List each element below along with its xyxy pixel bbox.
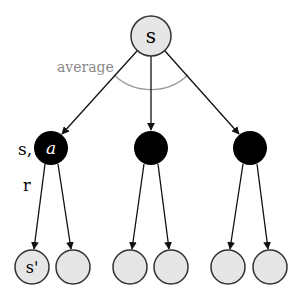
backup-diagram: s average a s, r s' <box>0 0 302 291</box>
root-state-label: s <box>146 24 156 48</box>
leaf-state-node-6 <box>253 250 287 284</box>
leaf-state-node-5 <box>211 250 245 284</box>
edge-action-1-to-leaf-2 <box>58 164 71 249</box>
edge-action-2-to-leaf-4 <box>158 164 169 249</box>
action-node-1: a <box>34 131 68 165</box>
edge-action-3-to-leaf-6 <box>257 164 268 249</box>
leaf-state-node-1: s' <box>15 250 49 284</box>
leaf-state-node-2 <box>56 250 90 284</box>
leaf-state-node-4 <box>154 250 188 284</box>
leaf-state-node-3 <box>113 250 147 284</box>
root-state-node: s <box>131 16 171 56</box>
action-node-label: a <box>46 138 56 158</box>
edge-action-2-to-leaf-3 <box>132 164 144 249</box>
edge-action-1-to-leaf-1 <box>34 164 45 249</box>
state-action-label: s, <box>18 139 32 159</box>
edge-action-3-to-leaf-5 <box>230 164 243 249</box>
leaf-state-label: s' <box>26 258 39 277</box>
average-label: average <box>57 59 114 75</box>
action-edges <box>34 164 268 249</box>
reward-label: r <box>23 176 31 195</box>
edge-root-to-action-3 <box>165 51 239 134</box>
action-node-3 <box>233 131 267 165</box>
action-node-2 <box>134 131 168 165</box>
